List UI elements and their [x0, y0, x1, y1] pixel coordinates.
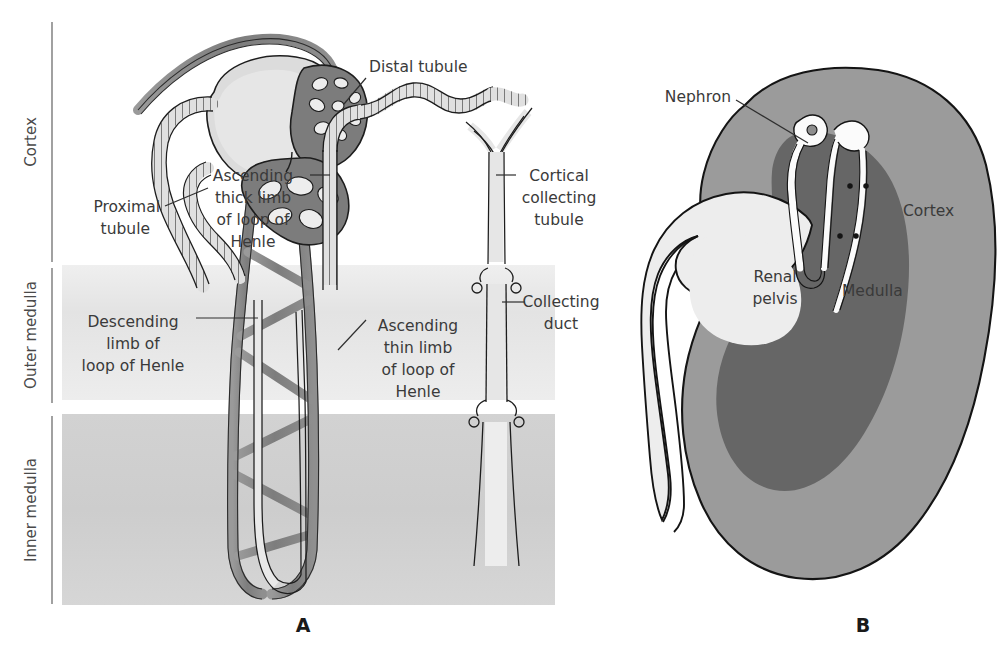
label-ascending-thick-limb-line-1: Ascending: [213, 167, 293, 185]
label-cortical-collecting-tubule-line-2: collecting: [522, 189, 597, 207]
nephron-glomerulus: [807, 125, 817, 135]
label-proximal-tubule-line-1: Proximal: [94, 198, 161, 216]
label-collecting-duct-line-2: duct: [544, 315, 578, 333]
label-ascending-thin-limb-line-1: Ascending: [378, 317, 458, 335]
figure-canvas: Cortex Outer medulla Inner medulla: [0, 0, 1007, 651]
label-ascending-thick-limb-line-4: Henle: [231, 233, 276, 251]
label-descending-limb-line-1: Descending: [87, 313, 178, 331]
zone-label-inner-medulla: Inner medulla: [22, 458, 40, 562]
distal-tubule-second-wave: [492, 94, 522, 101]
label-collecting-duct-line-1: Collecting: [522, 293, 599, 311]
label-distal-tubule: Distal tubule: [369, 58, 468, 76]
label-proximal-tubule-line-2: tubule: [101, 220, 150, 238]
label-ascending-thin-limb-line-2: thin limb: [384, 339, 453, 357]
panel-letter-b: B: [856, 614, 870, 636]
label-cortical-collecting-tubule-line-1: Cortical: [529, 167, 588, 185]
label-cortex-b: Cortex: [903, 202, 954, 220]
label-descending-limb-line-3: loop of Henle: [82, 357, 185, 375]
label-renal-pelvis-line-2: pelvis: [752, 290, 797, 308]
label-cortical-collecting-tubule-line-3: tubule: [534, 211, 583, 229]
label-ascending-thin-limb-line-4: Henle: [396, 383, 441, 401]
label-descending-limb-line-2: limb of: [106, 335, 160, 353]
zone-label-outer-medulla: Outer medulla: [22, 281, 40, 389]
label-ascending-thick-limb-line-3: of loop of: [217, 211, 290, 229]
label-ascending-thin-limb-line-3: of loop of: [382, 361, 455, 379]
nephron-kidney-diagram: Cortex Outer medulla Inner medulla: [0, 0, 1007, 651]
label-nephron: Nephron: [665, 88, 731, 106]
label-renal-pelvis-line-1: Renal: [753, 268, 796, 286]
label-medulla: Medulla: [842, 282, 903, 300]
label-ascending-thick-limb-line-2: thick limb: [215, 189, 291, 207]
zone-label-cortex: Cortex: [22, 117, 40, 167]
label-distal-tubule-line-1: Distal tubule: [369, 58, 468, 76]
panel-letter-a: A: [296, 614, 311, 636]
